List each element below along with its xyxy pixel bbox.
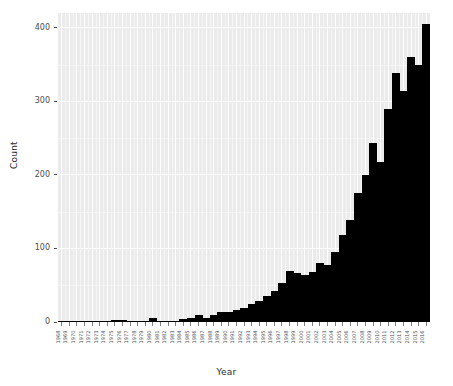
gridline-major-x (236, 13, 237, 322)
x-tick-label: 1982 (163, 331, 168, 344)
x-tick-label: 2015 (413, 331, 418, 344)
x-tick-mark (175, 322, 176, 326)
x-tick-mark (251, 322, 252, 326)
gridline-major-x (76, 13, 77, 322)
x-tick-mark (403, 322, 404, 326)
x-tick-label: 1973 (94, 331, 99, 344)
x-tick-label: 1998 (284, 331, 289, 344)
gridline-minor-x (156, 13, 157, 322)
x-tick-mark (342, 322, 343, 326)
gridline-minor-x (103, 13, 104, 322)
x-tick-label: 1980 (147, 331, 152, 344)
gridline-minor-x (80, 13, 81, 322)
x-tick-label: 2012 (390, 331, 395, 344)
x-tick-label: 1986 (193, 331, 198, 344)
x-tick-mark (145, 322, 146, 326)
x-tick-label: 1978 (132, 331, 137, 344)
x-tick-label: 1971 (79, 331, 84, 344)
gridline-major-x (107, 13, 108, 322)
x-tick-label: 2001 (307, 331, 312, 344)
x-tick-mark (335, 322, 336, 326)
x-tick-label: 2008 (360, 331, 365, 344)
x-tick-mark (130, 322, 131, 326)
x-tick-mark (137, 322, 138, 326)
gridline-minor-x (225, 13, 226, 322)
x-tick-mark (160, 322, 161, 326)
x-tick-mark (259, 322, 260, 326)
gridline-major-x (130, 13, 131, 322)
gridline-minor-x (65, 13, 66, 322)
gridline-major-x (251, 13, 252, 322)
y-tick-label: 0 (16, 317, 50, 326)
gridline-major-x (190, 13, 191, 322)
plot-panel (58, 13, 430, 322)
y-tick-mark (54, 101, 57, 102)
y-tick-mark (54, 248, 57, 249)
x-tick-label: 1993 (246, 331, 251, 344)
gridline-minor-x (111, 13, 112, 322)
x-tick-mark (289, 322, 290, 326)
gridline-major-x (244, 13, 245, 322)
x-tick-mark (221, 322, 222, 326)
x-tick-mark (183, 322, 184, 326)
gridline-major-x (122, 13, 123, 322)
x-tick-mark (152, 322, 153, 326)
x-tick-mark (122, 322, 123, 326)
x-tick-label: 1988 (208, 331, 213, 344)
x-tick-label: 1970 (71, 331, 76, 344)
x-tick-label: 1995 (261, 331, 266, 344)
gridline-minor-x (118, 13, 119, 322)
x-tick-label: 1976 (117, 331, 122, 344)
x-tick-mark (365, 322, 366, 326)
x-tick-label: 2009 (368, 331, 373, 344)
gridline-minor-x (187, 13, 188, 322)
x-tick-label: 1984 (178, 331, 183, 344)
x-tick-mark (304, 322, 305, 326)
x-tick-label: 1989 (216, 331, 221, 344)
gridline-major-x (114, 13, 115, 322)
x-tick-mark (244, 322, 245, 326)
y-tick-mark (54, 27, 57, 28)
y-tick-label: 200 (16, 170, 50, 179)
y-tick-label: 100 (16, 243, 50, 252)
x-tick-label: 1981 (155, 331, 160, 344)
x-tick-mark (357, 322, 358, 326)
gridline-minor-x (73, 13, 74, 322)
gridline-major-x (206, 13, 207, 322)
gridline-major-x (69, 13, 70, 322)
x-tick-label: 2006 (345, 331, 350, 344)
x-tick-mark (84, 322, 85, 326)
x-tick-label: 2002 (314, 331, 319, 344)
x-tick-mark (228, 322, 229, 326)
gridline-major-x (168, 13, 169, 322)
x-tick-mark (388, 322, 389, 326)
x-tick-mark (319, 322, 320, 326)
gridline-minor-x (88, 13, 89, 322)
x-tick-label: 1979 (140, 331, 145, 344)
gridline-minor-x (232, 13, 233, 322)
gridline-minor-x (194, 13, 195, 322)
gridline-minor-x (126, 13, 127, 322)
y-tick-label: 400 (16, 23, 50, 32)
gridline-minor-x (210, 13, 211, 322)
gridline-minor-x (202, 13, 203, 322)
x-tick-mark (99, 322, 100, 326)
gridline-minor-x (141, 13, 142, 322)
x-tick-mark (418, 322, 419, 326)
x-tick-label: 2003 (322, 331, 327, 344)
x-tick-mark (213, 322, 214, 326)
x-tick-label: 2010 (375, 331, 380, 344)
x-axis-title: Year (0, 367, 453, 377)
gridline-major-x (175, 13, 176, 322)
x-tick-label: 1968 (56, 331, 61, 344)
gridline-major-x (160, 13, 161, 322)
x-tick-label: 1997 (276, 331, 281, 344)
x-tick-mark (206, 322, 207, 326)
gridline-minor-x (278, 13, 279, 322)
gridline-major-x (145, 13, 146, 322)
gridline-major-x (274, 13, 275, 322)
x-tick-label: 1983 (170, 331, 175, 344)
gridline-major-x (137, 13, 138, 322)
x-tick-mark (395, 322, 396, 326)
gridline-minor-x (172, 13, 173, 322)
